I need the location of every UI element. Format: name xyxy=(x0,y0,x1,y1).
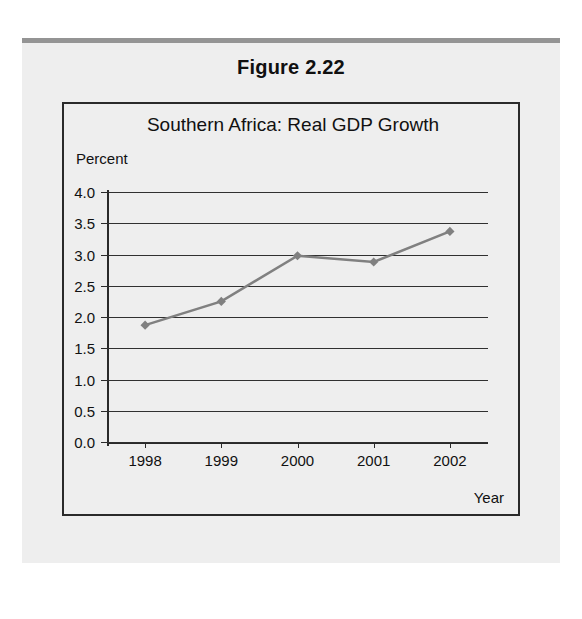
y-tick-label: 2.5 xyxy=(59,277,95,294)
y-tick-label: 4.0 xyxy=(59,184,95,201)
gridline xyxy=(107,442,488,443)
y-tick-label: 1.5 xyxy=(59,340,95,357)
x-tick-label: 1999 xyxy=(186,452,256,469)
x-tick-label: 1998 xyxy=(110,452,180,469)
y-tick-label: 3.0 xyxy=(59,246,95,263)
plot-area xyxy=(107,192,488,442)
figure-divider-rule xyxy=(22,38,560,43)
y-tick-label: 3.5 xyxy=(59,215,95,232)
y-tick-label: 2.0 xyxy=(59,309,95,326)
y-tick-label: 0.5 xyxy=(59,402,95,419)
series-line xyxy=(145,231,450,325)
series-line-chart xyxy=(107,192,488,442)
y-tick-label: 1.0 xyxy=(59,371,95,388)
data-point-marker xyxy=(445,227,454,236)
x-tick-label: 2001 xyxy=(339,452,409,469)
data-point-marker xyxy=(141,321,150,330)
x-tick-label: 2002 xyxy=(415,452,485,469)
data-point-marker xyxy=(369,257,378,266)
y-tick-label: 0.0 xyxy=(59,434,95,451)
x-tick-label: 2000 xyxy=(263,452,333,469)
y-axis-title: Percent xyxy=(76,150,128,167)
x-axis-title: Year xyxy=(474,489,504,506)
figure-caption: Figure 2.22 xyxy=(22,56,560,79)
figure-page: Figure 2.22 Southern Africa: Real GDP Gr… xyxy=(0,0,582,619)
chart-title: Southern Africa: Real GDP Growth xyxy=(64,114,522,136)
chart-frame: Southern Africa: Real GDP Growth Percent… xyxy=(62,102,520,516)
figure-panel: Figure 2.22 Southern Africa: Real GDP Gr… xyxy=(22,38,560,563)
